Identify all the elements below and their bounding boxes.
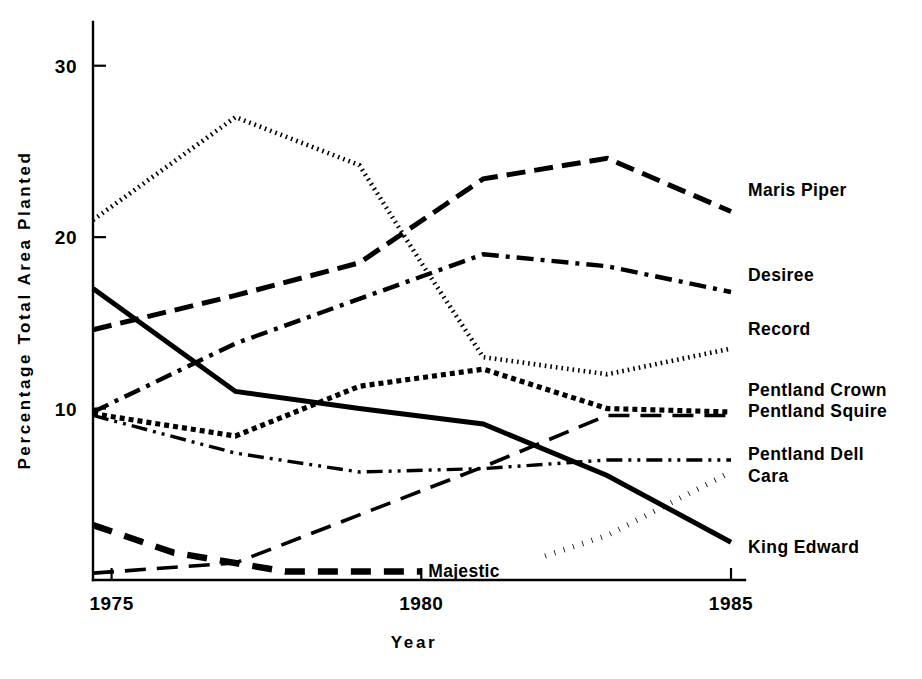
- line-chart: 102030 197519801985 Percentage Total Are…: [0, 0, 922, 679]
- x-tick-label: 1975: [89, 593, 133, 614]
- series-line-record: [93, 117, 731, 374]
- series-label-cara: Cara: [748, 466, 789, 486]
- y-tick-labels: 102030: [55, 56, 77, 420]
- series-label-pentland-dell: Pentland Dell: [748, 444, 864, 464]
- series-label-majestic: Majestic: [428, 561, 499, 581]
- series-line-pentland-squire: [93, 415, 731, 573]
- series-label-group: Maris PiperDesireeRecordPentland CrownPe…: [428, 180, 887, 581]
- series-label-king-edward: King Edward: [748, 537, 859, 557]
- y-tick-label: 20: [55, 227, 77, 248]
- series-line-king-edward: [93, 289, 731, 543]
- y-axis-title: Percentage Total Area Planted: [15, 150, 34, 469]
- y-tick-label: 10: [55, 399, 77, 420]
- x-axis-title: Year: [391, 633, 437, 652]
- chart-container: 102030 197519801985 Percentage Total Are…: [0, 0, 922, 679]
- series-label-pentland-crown: Pentland Crown: [748, 380, 887, 400]
- series-paths: [93, 117, 731, 573]
- series-label-desiree: Desiree: [748, 265, 814, 285]
- y-tick-group: [93, 66, 106, 409]
- x-tick-labels: 197519801985: [89, 593, 753, 614]
- series-label-maris-piper: Maris Piper: [748, 180, 847, 200]
- x-tick-label: 1980: [399, 593, 443, 614]
- series-line-cara: [545, 472, 731, 556]
- x-tick-label: 1985: [709, 593, 753, 614]
- series-line-desiree: [93, 254, 731, 412]
- x-tick-group: [112, 568, 731, 580]
- series-label-pentland-squire: Pentland Squire: [748, 401, 887, 421]
- series-line-pentland-dell: [93, 415, 731, 472]
- series-line-pentland-crown: [93, 369, 731, 436]
- series-label-record: Record: [748, 319, 811, 339]
- y-tick-label: 30: [55, 56, 77, 77]
- series-line-majestic: [93, 525, 421, 571]
